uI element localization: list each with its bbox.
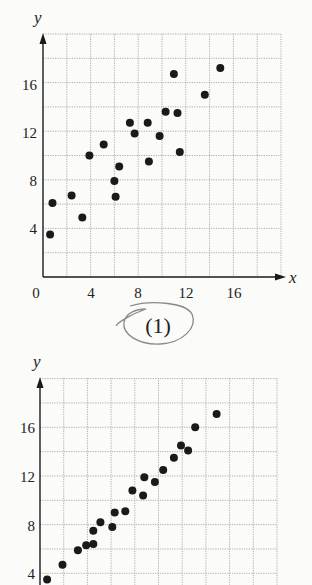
plot-1-x-ticks: 0 4 8 12 16 bbox=[32, 285, 242, 301]
data-point bbox=[89, 527, 97, 535]
data-point bbox=[85, 152, 93, 160]
plot-1-caption: (1) bbox=[116, 303, 193, 344]
y-tick: 12 bbox=[22, 125, 37, 141]
data-point bbox=[170, 70, 178, 78]
data-point bbox=[59, 561, 67, 569]
scatter-plot-2: y 4 8 12 16 bbox=[20, 352, 277, 585]
data-point bbox=[144, 119, 152, 127]
data-point bbox=[145, 158, 153, 166]
x-tick: 0 bbox=[32, 285, 40, 301]
plot-2-axes bbox=[37, 377, 44, 585]
plot-2-y-label: y bbox=[31, 352, 41, 371]
data-point bbox=[115, 162, 123, 170]
plot-1-caption-label: (1) bbox=[145, 313, 171, 338]
data-point bbox=[213, 410, 221, 418]
plot-1-y-ticks: 4 8 12 16 bbox=[22, 77, 38, 237]
data-point bbox=[176, 148, 184, 156]
figure-page: y x 4 8 12 16 0 4 8 12 16 (1) bbox=[0, 0, 312, 585]
plot-1-points bbox=[46, 64, 224, 239]
y-tick: 16 bbox=[20, 420, 36, 436]
y-tick: 4 bbox=[28, 566, 36, 582]
plot-2-points bbox=[43, 410, 221, 584]
data-point bbox=[112, 193, 120, 201]
data-point bbox=[108, 523, 116, 531]
data-point bbox=[162, 108, 170, 116]
data-point bbox=[131, 130, 139, 138]
data-point bbox=[174, 109, 182, 117]
data-point bbox=[156, 132, 164, 140]
data-point bbox=[43, 575, 51, 583]
data-point bbox=[151, 478, 159, 486]
data-point bbox=[216, 64, 224, 72]
data-point bbox=[100, 141, 108, 149]
data-point bbox=[74, 546, 82, 554]
y-tick: 8 bbox=[30, 173, 38, 189]
data-point bbox=[68, 192, 76, 200]
data-point bbox=[191, 423, 199, 431]
data-point bbox=[78, 214, 86, 222]
data-point bbox=[121, 507, 129, 515]
scatter-figures: y x 4 8 12 16 0 4 8 12 16 (1) bbox=[0, 0, 312, 585]
data-point bbox=[126, 119, 134, 127]
data-point bbox=[128, 487, 136, 495]
plot-1-y-arrow-icon bbox=[40, 33, 47, 44]
data-point bbox=[177, 442, 185, 450]
plot-1-grid bbox=[43, 34, 281, 277]
data-point bbox=[96, 518, 104, 526]
data-point bbox=[89, 540, 97, 548]
x-tick: 8 bbox=[134, 285, 142, 301]
plot-2-y-ticks: 4 8 12 16 bbox=[20, 420, 36, 582]
y-tick: 16 bbox=[22, 77, 38, 93]
scatter-plot-1: y x 4 8 12 16 0 4 8 12 16 bbox=[22, 8, 297, 301]
data-point bbox=[46, 231, 54, 239]
data-point bbox=[110, 177, 118, 185]
data-point bbox=[170, 454, 178, 462]
data-point bbox=[140, 473, 148, 481]
y-tick: 8 bbox=[28, 518, 36, 534]
data-point bbox=[111, 509, 119, 517]
data-point bbox=[82, 541, 90, 549]
plot-1-x-label: x bbox=[288, 268, 297, 287]
plot-1-x-arrow-icon bbox=[275, 274, 286, 281]
plot-1-y-label: y bbox=[32, 8, 42, 27]
data-point bbox=[159, 466, 167, 474]
x-tick: 4 bbox=[87, 285, 95, 301]
x-tick: 16 bbox=[227, 285, 243, 301]
y-tick: 4 bbox=[30, 221, 38, 237]
data-point bbox=[49, 199, 57, 207]
data-point bbox=[201, 91, 209, 99]
plot-1-axes bbox=[40, 33, 287, 281]
data-point bbox=[184, 446, 192, 454]
data-point bbox=[139, 491, 147, 499]
x-tick: 12 bbox=[179, 285, 194, 301]
y-tick: 12 bbox=[20, 469, 35, 485]
